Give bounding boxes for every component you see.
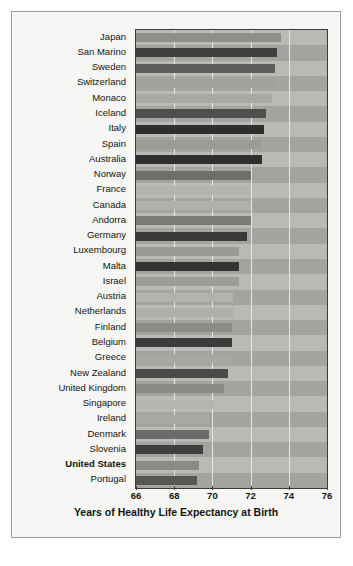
- bar: [136, 369, 228, 378]
- category-label: Greece: [95, 352, 126, 362]
- plot-inner: [136, 30, 327, 488]
- bar: [136, 308, 233, 317]
- category-axis-labels: JapanSan MarinoSwedenSwitzerlandMonacoIc…: [12, 29, 131, 487]
- bar: [136, 33, 281, 42]
- bar: [136, 354, 232, 363]
- category-label: Norway: [94, 169, 126, 179]
- category-label: Monaco: [92, 93, 126, 103]
- category-label: San Marino: [77, 47, 126, 57]
- bar: [136, 232, 247, 241]
- bar: [136, 262, 239, 271]
- gridline: [289, 30, 290, 488]
- bar: [136, 155, 262, 164]
- bar: [136, 476, 197, 485]
- x-tick-label: 76: [322, 490, 333, 501]
- bar: [136, 277, 239, 286]
- category-label: Netherlands: [75, 306, 126, 316]
- x-tick-label: 68: [169, 490, 180, 501]
- bar: [136, 445, 203, 454]
- bar: [136, 186, 251, 195]
- category-label: Belgium: [92, 337, 126, 347]
- category-label: Finland: [95, 322, 126, 332]
- bar: [136, 94, 272, 103]
- bar: [136, 415, 209, 424]
- category-label: Slovenia: [90, 444, 126, 454]
- x-axis-title: Years of Healthy Life Expectancy at Birt…: [12, 506, 340, 518]
- bar: [136, 125, 264, 134]
- bar: [136, 247, 239, 256]
- bar: [136, 384, 224, 393]
- category-label: Malta: [103, 261, 126, 271]
- bar: [136, 140, 262, 149]
- bar: [136, 461, 199, 470]
- category-label: Denmark: [87, 429, 126, 439]
- category-label: Switzerland: [77, 77, 126, 87]
- bar: [136, 430, 209, 439]
- category-label: Portugal: [91, 474, 126, 484]
- category-label: Australia: [89, 154, 126, 164]
- category-label: United States: [65, 459, 126, 469]
- category-label: Italy: [109, 123, 126, 133]
- category-label: Germany: [87, 230, 126, 240]
- bar: [136, 48, 277, 57]
- category-label: New Zealand: [70, 368, 126, 378]
- bar: [136, 323, 232, 332]
- bar: [136, 216, 251, 225]
- plot-area: [135, 29, 328, 489]
- bar: [136, 338, 232, 347]
- value-axis-ticks: 666870727476: [135, 490, 328, 506]
- category-label: Singapore: [83, 398, 126, 408]
- bar: [136, 400, 214, 409]
- category-label: Japan: [100, 32, 126, 42]
- category-label: Canada: [93, 200, 126, 210]
- category-label: Andorra: [92, 215, 126, 225]
- figure-panel: JapanSan MarinoSwedenSwitzerlandMonacoIc…: [11, 11, 341, 538]
- category-label: Luxembourg: [73, 245, 126, 255]
- bar: [136, 109, 266, 118]
- bar: [136, 171, 251, 180]
- category-label: Israel: [103, 276, 126, 286]
- category-label: Iceland: [95, 108, 126, 118]
- category-label: United Kingdom: [58, 383, 126, 393]
- x-tick-label: 72: [245, 490, 256, 501]
- category-label: Austria: [96, 291, 126, 301]
- x-tick-label: 70: [207, 490, 218, 501]
- category-label: Sweden: [92, 62, 126, 72]
- x-tick-label: 66: [131, 490, 142, 501]
- bar: [136, 79, 274, 88]
- category-label: Spain: [102, 139, 126, 149]
- bar: [136, 64, 275, 73]
- bar: [136, 293, 233, 302]
- category-label: France: [96, 184, 126, 194]
- x-tick-label: 74: [284, 490, 295, 501]
- bar: [136, 201, 251, 210]
- category-label: Ireland: [97, 413, 126, 423]
